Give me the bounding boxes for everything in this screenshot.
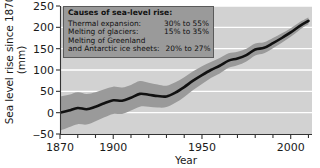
- legend-row-label: and Antarctic ice sheets:: [68, 45, 166, 54]
- x-tick-label: 2000: [277, 141, 305, 154]
- x-tick-label: 1950: [188, 141, 216, 154]
- y-axis-title-line1: Sea level rise since 1870: [3, 0, 15, 124]
- x-tick-label: 1900: [99, 141, 127, 154]
- y-tick-label: 50: [26, 86, 54, 97]
- y-tick-label: 100: [26, 65, 54, 76]
- legend-rows: Thermal expansion:30% to 55%Melting of g…: [68, 20, 209, 54]
- y-tick-label: 0: [26, 107, 54, 118]
- y-tick-label: 250: [26, 1, 54, 12]
- y-tick-label: 200: [26, 22, 54, 33]
- x-axis-title: Year: [60, 154, 312, 166]
- legend-row-value: 15% to 35%: [164, 28, 209, 37]
- legend-row: and Antarctic ice sheets:20% to 27%: [68, 45, 209, 54]
- y-tick-label: ‒50: [26, 129, 54, 140]
- sea-level-rise-chart: Sea level rise since 1870 (mm) 250200150…: [0, 0, 320, 168]
- legend-row-value: 20% to 27%: [166, 45, 211, 54]
- x-tick-label: 1870: [46, 141, 74, 154]
- legend-box: Causes of sea-level rise: Thermal expans…: [63, 6, 214, 58]
- legend-title: Causes of sea-level rise:: [68, 9, 209, 18]
- y-tick-label: 150: [26, 43, 54, 54]
